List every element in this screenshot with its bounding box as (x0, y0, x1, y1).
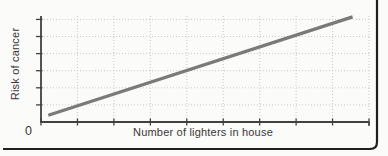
origin-tick-label: 0 (25, 124, 32, 138)
grid-lines (41, 16, 369, 122)
axes (41, 16, 370, 123)
cancer-risk-vs-lighters-line (48, 17, 352, 115)
y-axis-label: Risk of cancer (9, 19, 23, 109)
x-axis-label: Number of lighters in house (103, 126, 303, 138)
series (48, 17, 352, 115)
tick-marks (36, 19, 369, 126)
textbook-figure: Risk of cancer Number of lighters in hou… (0, 0, 388, 156)
